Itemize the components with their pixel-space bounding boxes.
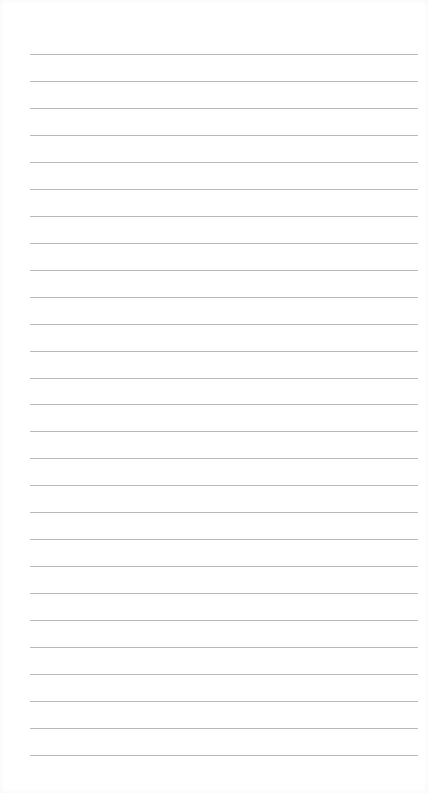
ruled-line	[30, 189, 418, 190]
ruled-line	[30, 108, 418, 109]
ruled-line	[30, 647, 418, 648]
lined-paper-sheet	[0, 0, 428, 793]
ruled-line	[30, 485, 418, 486]
ruled-line	[30, 270, 418, 271]
ruled-line	[30, 431, 418, 432]
ruled-line	[30, 162, 418, 163]
ruled-line	[30, 593, 418, 594]
ruled-line	[30, 539, 418, 540]
ruled-line	[30, 81, 418, 82]
ruled-line	[30, 728, 418, 729]
ruled-line	[30, 243, 418, 244]
ruled-line	[30, 701, 418, 702]
ruled-line	[30, 216, 418, 217]
ruled-line	[30, 674, 418, 675]
ruled-line	[30, 755, 418, 756]
ruled-line	[30, 54, 418, 55]
ruled-line	[30, 351, 418, 352]
ruled-line	[30, 378, 418, 379]
ruled-line	[30, 135, 418, 136]
ruled-line	[30, 404, 418, 405]
ruled-line	[30, 620, 418, 621]
ruled-line	[30, 324, 418, 325]
ruled-line	[30, 512, 418, 513]
ruled-line	[30, 566, 418, 567]
ruled-line	[30, 297, 418, 298]
ruled-line	[30, 458, 418, 459]
